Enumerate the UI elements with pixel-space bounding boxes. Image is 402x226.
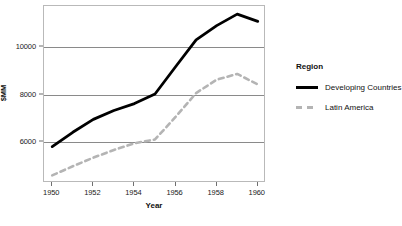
legend-item-latin-america[interactable]: Latin America <box>296 102 388 112</box>
legend-label-latin-america: Latin America <box>325 103 373 112</box>
x-tick-label-1960: 1960 <box>249 188 265 197</box>
x-tick-mark-1952 <box>92 182 93 186</box>
x-axis-title: Year <box>146 201 163 210</box>
x-tick-label-1950: 1950 <box>43 188 59 197</box>
x-tick-label-1952: 1952 <box>84 188 100 197</box>
y-tick-label-6000: 6000 <box>20 137 36 146</box>
y-tick-label-8000: 8000 <box>20 89 36 98</box>
plot-area <box>43 5 265 182</box>
series-line-developing-countries <box>52 14 258 147</box>
x-tick-mark-1956 <box>175 182 176 186</box>
legend-title: Region <box>296 62 388 71</box>
x-tick-mark-1950 <box>51 182 52 186</box>
x-tick-mark-1958 <box>216 182 217 186</box>
x-tick-label-1958: 1958 <box>208 188 224 197</box>
x-tick-label-1956: 1956 <box>166 188 182 197</box>
series-lines <box>44 6 266 183</box>
y-axis-title: $MM <box>0 85 8 102</box>
y-tick-label-10000: 10000 <box>16 41 36 50</box>
x-tick-mark-1954 <box>133 182 134 186</box>
legend-swatch-dashed-icon <box>296 102 318 112</box>
x-tick-mark-1960 <box>257 182 258 186</box>
legend: Region Developing Countries Latin Americ… <box>296 62 388 122</box>
legend-item-developing-countries[interactable]: Developing Countries <box>296 82 388 92</box>
x-tick-label-1954: 1954 <box>125 188 141 197</box>
legend-swatch-solid-icon <box>296 82 318 92</box>
legend-label-developing-countries: Developing Countries <box>325 83 402 92</box>
